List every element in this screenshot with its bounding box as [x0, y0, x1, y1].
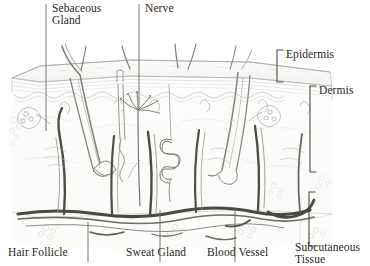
label-nerve: Nerve [145, 3, 174, 15]
skin-block [10, 44, 333, 250]
label-subcutaneous-tissue: Subcutaneous Tissue [295, 242, 360, 266]
label-epidermis: Epidermis [286, 49, 334, 61]
label-sweat-gland: Sweat Gland [126, 247, 186, 259]
label-sebaceous-gland: Sebaceous Gland [52, 3, 101, 27]
label-hair-follicle: Hair Follicle [8, 247, 68, 259]
label-blood-vessel: Blood Vessel [207, 247, 268, 259]
label-dermis: Dermis [319, 85, 353, 97]
skin-cross-section-illustration [0, 0, 370, 266]
